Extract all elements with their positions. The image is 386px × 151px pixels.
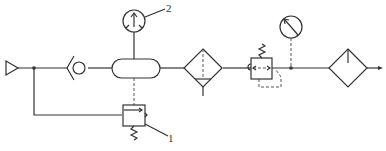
pressure-gauge-icon	[123, 10, 145, 32]
branch-line	[34, 68, 122, 115]
lubricator-icon	[329, 49, 367, 87]
junction-dot	[289, 66, 293, 70]
filter-icon	[184, 49, 222, 96]
pressure-switch-valve-icon	[123, 105, 147, 140]
callout-label-2: 2	[166, 2, 172, 14]
callout-leader-1	[145, 124, 168, 136]
pneumatic-diagram: 2 1	[0, 0, 386, 151]
outlet-arrow-icon	[378, 66, 383, 70]
check-valve-icon	[67, 56, 85, 80]
pressure-source-icon	[6, 61, 18, 75]
callout-leader-2	[145, 9, 165, 17]
air-tank-icon	[112, 59, 160, 78]
callout-label-1: 1	[168, 132, 174, 144]
pressure-gauge-icon	[280, 16, 302, 38]
pressure-regulator-icon	[248, 44, 281, 87]
